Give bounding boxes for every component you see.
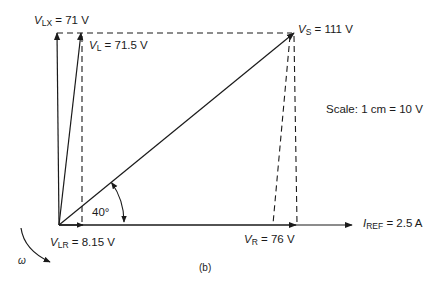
label-v-lx: VLX = 71 V xyxy=(34,15,89,28)
angle-label: 40° xyxy=(92,207,109,219)
label-v-lr: VLR = 8.15 V xyxy=(50,237,115,250)
scale-label: Scale: 1 cm = 10 V xyxy=(326,104,423,116)
v-l-phasor xyxy=(59,33,81,225)
label-v-s: VS = 111 V xyxy=(298,24,353,37)
figure-caption: (b) xyxy=(199,263,211,273)
angle-arc xyxy=(112,183,125,223)
label-v-r: VR = 76 V xyxy=(244,234,295,247)
dashed-v-s-drop-right xyxy=(294,36,297,224)
omega-label: ω xyxy=(18,256,26,266)
label-i-ref: IREF = 2.5 A xyxy=(363,218,423,231)
v-lx-phasor xyxy=(57,33,59,225)
v-s-phasor xyxy=(59,33,294,225)
dashed-v-s-drop-left xyxy=(273,36,290,224)
label-v-l: VL = 71.5 V xyxy=(89,40,148,53)
